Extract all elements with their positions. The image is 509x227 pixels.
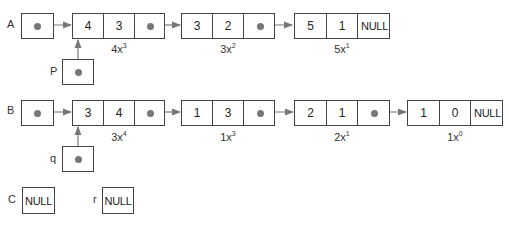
exp-cell: 3 <box>104 14 135 38</box>
next-cell <box>244 14 276 38</box>
coef-cell: 5 <box>295 14 327 38</box>
pointer-dot-icon <box>34 23 41 30</box>
next-cell <box>358 101 391 125</box>
pointer-r-label: r <box>93 193 97 205</box>
pointer-dot-icon <box>147 23 154 30</box>
pointer-p-label: P <box>50 65 57 77</box>
next-cell <box>244 101 276 125</box>
list-a-label: A <box>7 18 14 30</box>
pointer-p-box[interactable] <box>62 59 94 85</box>
coef-cell: 4 <box>73 14 104 38</box>
list-b-node-2[interactable]: 1 3 <box>181 100 275 126</box>
list-a-node-3[interactable]: 5 1 NULL <box>294 13 390 39</box>
next-cell <box>135 101 166 125</box>
pointer-dot-icon <box>75 69 82 76</box>
list-b-head-pointer[interactable] <box>21 100 54 126</box>
pointer-c-box[interactable]: NULL <box>22 187 55 214</box>
list-a-node-1[interactable]: 4 3 <box>72 13 165 39</box>
coef-cell: 1 <box>182 101 213 125</box>
pointer-r-box[interactable]: NULL <box>102 187 134 214</box>
coef-cell: 1 <box>408 101 440 125</box>
pointer-dot-icon <box>257 110 264 117</box>
term-label: 4x3 <box>89 42 149 55</box>
coef-cell: 3 <box>182 14 213 38</box>
list-b-node-4[interactable]: 1 0 NULL <box>407 100 503 126</box>
term-label: 1x3 <box>198 130 258 143</box>
pointer-dot-icon <box>257 23 264 30</box>
exp-cell: 0 <box>440 101 471 125</box>
exp-cell: 4 <box>104 101 135 125</box>
coef-cell: 2 <box>295 101 327 125</box>
pointer-dot-icon <box>75 156 82 163</box>
next-null-cell: NULL <box>471 101 504 125</box>
pointer-dot-icon <box>147 110 154 117</box>
list-b-label: B <box>7 104 14 116</box>
next-cell <box>135 14 166 38</box>
list-a-node-2[interactable]: 3 2 <box>181 13 275 39</box>
list-a-head-pointer[interactable] <box>21 13 54 39</box>
pointer-c-label: C <box>8 193 16 205</box>
exp-cell: 2 <box>213 14 244 38</box>
exp-cell: 3 <box>213 101 244 125</box>
term-label: 5x1 <box>312 42 372 55</box>
pointer-q-box[interactable] <box>62 146 94 172</box>
term-label: 3x2 <box>198 42 258 55</box>
exp-cell: 1 <box>327 14 358 38</box>
term-label: 2x1 <box>312 130 372 143</box>
pointer-dot-icon <box>371 110 378 117</box>
exp-cell: 1 <box>327 101 358 125</box>
list-b-node-1[interactable]: 3 4 <box>72 100 165 126</box>
list-b-node-3[interactable]: 2 1 <box>294 100 390 126</box>
next-null-cell: NULL <box>358 14 391 38</box>
term-label: 1x0 <box>425 130 485 143</box>
coef-cell: 3 <box>73 101 104 125</box>
term-label: 3x4 <box>89 130 149 143</box>
pointer-dot-icon <box>34 110 41 117</box>
pointer-q-label: q <box>50 152 56 164</box>
